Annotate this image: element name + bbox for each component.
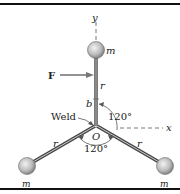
mass-ball-left — [19, 158, 36, 175]
mass-label-top: m — [106, 45, 115, 56]
rigid-body-diagram: y x m m m F r r r b Weld O 120° 120° — [0, 0, 180, 194]
mass-ball-right — [157, 158, 174, 175]
x-axis-label: x — [166, 122, 172, 133]
origin-label: O — [92, 131, 100, 142]
offset-label-b: b — [86, 98, 92, 109]
angle-label-upper: 120° — [108, 111, 132, 122]
weld-label: Weld — [51, 111, 77, 122]
mass-ball-top — [88, 42, 105, 59]
y-axis-label: y — [91, 12, 98, 23]
mass-label-left: m — [22, 179, 31, 189]
top-rule — [0, 3, 180, 5]
force-label: F — [48, 70, 55, 81]
mass-label-right: m — [160, 179, 169, 189]
force-arrow-icon — [60, 72, 94, 78]
diagram-canvas: y x m m m F r r r b Weld O 120° 120° — [0, 0, 180, 194]
arm-label-right: r — [137, 138, 143, 149]
angle-label-lower: 120° — [84, 143, 108, 154]
angle-arc-upper-arrowhead-icon — [99, 102, 104, 107]
arm-label-top: r — [100, 80, 106, 91]
